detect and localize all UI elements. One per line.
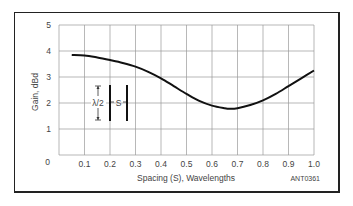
y-tick-label: 3: [46, 72, 51, 82]
gain-vs-spacing-chart: 012345 0.10.20.30.40.50.60.70.80.91.0 λ/…: [0, 0, 353, 206]
x-axis-label: Spacing (S), Wavelengths: [137, 173, 235, 183]
clipped-caption: [14, 202, 340, 206]
half-wave-label: λ/2: [92, 98, 104, 108]
spacing-label: S: [116, 98, 122, 108]
x-tick-label: 0.8: [257, 159, 269, 169]
y-tick-label: 0: [45, 157, 50, 167]
x-tick-label: 0.4: [155, 159, 167, 169]
x-tick-label: 0.5: [181, 159, 193, 169]
x-axis-ticks: 0.10.20.30.40.50.60.70.80.91.0: [79, 159, 321, 169]
x-tick-label: 0.6: [206, 159, 218, 169]
x-tick-label: 0.1: [79, 159, 91, 169]
y-tick-label: 4: [46, 46, 51, 56]
x-tick-label: 0.3: [130, 159, 142, 169]
x-tick-label: 0.7: [232, 159, 244, 169]
y-axis-ticks: 012345: [45, 20, 51, 167]
y-tick-label: 2: [46, 98, 51, 108]
y-tick-label: 5: [46, 20, 51, 30]
gain-curve: [72, 55, 314, 109]
y-axis-label: Gain, dBd: [30, 73, 40, 111]
x-tick-label: 0.9: [283, 159, 295, 169]
y-tick-label: 1: [46, 124, 51, 134]
x-tick-label: 1.0: [308, 159, 320, 169]
plot-grid: [59, 25, 314, 155]
x-tick-label: 0.2: [104, 159, 116, 169]
figure-id: ANT0361: [290, 175, 320, 182]
